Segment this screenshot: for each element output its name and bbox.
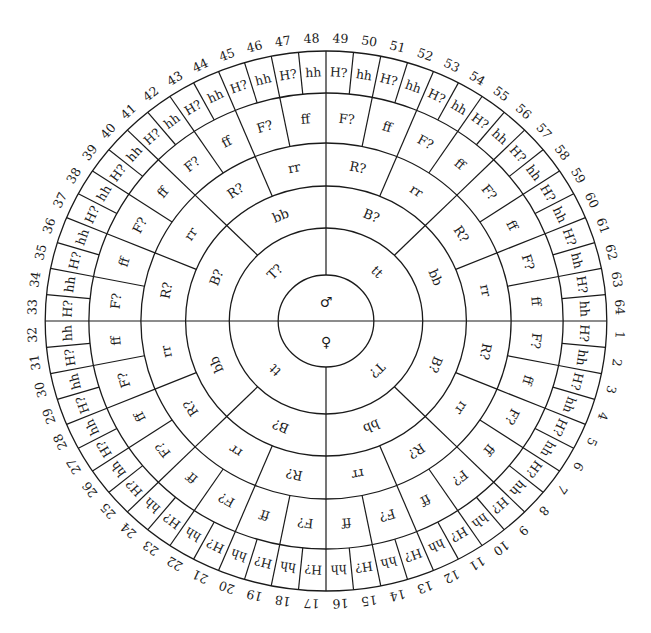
genotype-label: tt (368, 263, 387, 282)
sector-divider (397, 110, 417, 156)
sector-number: 30 (31, 380, 49, 399)
genotype-label: hh (403, 77, 423, 97)
sector-divider (280, 97, 290, 146)
sector-divider (235, 110, 255, 156)
genotype-label: hh (161, 110, 183, 132)
genotype-label: hh (469, 510, 491, 532)
genotype-label: hh (93, 182, 114, 204)
sector-divider (508, 356, 559, 366)
sector-number: 25 (97, 500, 119, 522)
sector-number: 10 (490, 538, 512, 560)
sector-number: 27 (63, 456, 84, 477)
sector-divider (93, 277, 144, 287)
sector-divider (425, 195, 457, 225)
sector-number: 24 (117, 520, 139, 542)
genotype-label: R? (224, 180, 246, 202)
sector-number: 51 (388, 37, 407, 55)
genotype-label: rr (407, 181, 426, 201)
sector-number: 31 (26, 354, 43, 372)
genotype-label: H? (488, 494, 511, 517)
genotype-label: R? (157, 281, 175, 300)
genotype-label: H? (61, 347, 78, 367)
sector-divider (255, 446, 272, 486)
sector-number: 5 (584, 435, 601, 449)
sector-number: 2 (609, 357, 625, 367)
genotype-label: F? (338, 111, 355, 127)
genotype-label: hh (205, 86, 226, 106)
sector-divider (235, 485, 255, 531)
genotype-label: H? (141, 125, 164, 148)
sector-divider (394, 226, 425, 256)
genotype-label: hh (523, 162, 545, 184)
sector-number: 38 (63, 165, 84, 186)
genotype-label: R? (180, 397, 202, 419)
genotype-label: H? (379, 70, 400, 89)
genotype-label: F? (415, 132, 436, 153)
genotype-label: H? (447, 524, 470, 546)
genotype-label: hh (253, 70, 272, 88)
genotype-label: hh (61, 275, 78, 293)
sector-number: 37 (50, 190, 70, 211)
genotype-label: hh (448, 97, 470, 118)
genotype-label: hh (574, 348, 591, 366)
genotype-label: F? (152, 439, 174, 461)
genotype-label: H? (65, 250, 84, 271)
sector-number: 18 (274, 592, 292, 609)
genotype-label: ff (219, 132, 236, 150)
wheel: ♂♀ttT?ttT?B?bbB?bbB?bbB?bbR?rrR?rrR?rrR?… (24, 30, 628, 611)
sector-divider (280, 496, 290, 545)
sector-number: 26 (79, 479, 101, 501)
sector-number: 3 (603, 384, 619, 395)
male-symbol-icon: ♂ (320, 294, 333, 310)
sector-number: 61 (593, 216, 612, 236)
genotype-label: hh (550, 204, 570, 225)
genotype-label: hh (489, 126, 511, 148)
genotype-label: hh (538, 438, 559, 460)
genotype-label: B? (206, 267, 226, 288)
genotype-label: hh (59, 325, 75, 342)
sector-divider (362, 97, 372, 146)
sector-number: 22 (164, 553, 185, 574)
sector-number: 47 (274, 32, 292, 49)
sector-number: 36 (39, 216, 58, 236)
genotype-label: hh (577, 300, 593, 317)
sector-number: 60 (582, 190, 602, 211)
sector-divider (107, 389, 155, 408)
genotype-label: H? (560, 226, 580, 248)
genotype-label: H? (537, 182, 559, 205)
genotype-label: F? (114, 370, 133, 390)
genotype-label: F? (129, 215, 150, 236)
sector-divider (255, 157, 272, 197)
genotype-label: F? (449, 467, 471, 489)
genotype-label: hh (182, 524, 204, 545)
genotype-label: rr (158, 343, 175, 359)
genotype-label: hh (355, 66, 373, 83)
sector-divider (195, 416, 227, 446)
genotype-label: H? (160, 510, 183, 533)
genotype-label: F? (297, 515, 314, 531)
genotype-label: hh (426, 536, 447, 556)
sector-divider (380, 157, 397, 197)
sector-number: 13 (415, 578, 435, 597)
sector-number: 35 (31, 243, 49, 262)
genotype-label: hh (279, 559, 297, 576)
sector-number: 6 (570, 459, 587, 474)
genotype-label: hh (141, 495, 163, 517)
genotype-label: R? (405, 440, 427, 462)
sector-number: 58 (552, 142, 574, 164)
genotype-label: ff (340, 515, 352, 531)
genotype-label: rr (477, 283, 494, 299)
genotype-label: bb (361, 416, 382, 436)
sector-divider (298, 548, 302, 590)
genotype-label: H? (228, 76, 250, 96)
sector-number: 8 (536, 503, 552, 519)
genotype-label: F? (181, 153, 203, 175)
genotype-label: F? (528, 332, 544, 349)
sector-divider (47, 343, 90, 347)
genotype-label: hh (305, 64, 322, 80)
sector-number: 29 (39, 406, 58, 426)
genotype-label: H? (59, 299, 75, 318)
sector-number: 52 (415, 45, 435, 64)
genotype-label: H? (549, 416, 570, 439)
sector-number: 55 (490, 83, 512, 105)
